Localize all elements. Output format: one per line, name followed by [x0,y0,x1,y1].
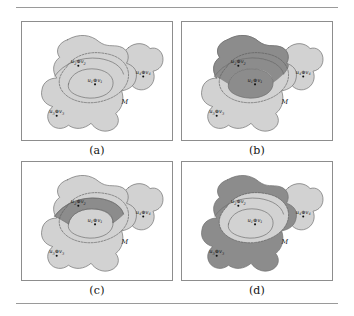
horizontal-rule-top [16,7,338,8]
panel-cell-c: Mu1⊕v1u2⊕v2u3⊕v3u4⊕v4 (c) [21,161,173,301]
diagram-svg-c: Mu1⊕v1u2⊕v2u3⊕v3u4⊕v4 [22,162,172,280]
region-main-blob [41,35,136,131]
point-marker-u4v4 [302,215,304,217]
panel-caption-d: (d) [181,281,333,301]
diagram-panel-a: Mu1⊕v1u2⊕v2u3⊕v3u4⊕v4 [21,21,173,141]
m-region-label: M [121,98,129,106]
diagram-panel-b: Mu1⊕v1u2⊕v2u3⊕v3u4⊕v4 [181,21,333,141]
point-marker-u2v2 [77,65,79,67]
point-marker-u4v4 [142,215,144,217]
point-marker-u4v4 [142,75,144,77]
point-marker-u2v2 [77,205,79,207]
figure-container: Mu1⊕v1u2⊕v2u3⊕v3u4⊕v4 (a) Mu1⊕v1u2⊕v2u3⊕… [0,0,354,316]
point-marker-u4v4 [302,75,304,77]
diagram-svg-b: Mu1⊕v1u2⊕v2u3⊕v3u4⊕v4 [182,22,332,140]
diagram-svg-d: Mu1⊕v1u2⊕v2u3⊕v3u4⊕v4 [182,162,332,280]
point-marker-u2v2 [237,65,239,67]
panel-grid: Mu1⊕v1u2⊕v2u3⊕v3u4⊕v4 (a) Mu1⊕v1u2⊕v2u3⊕… [21,21,333,301]
point-marker-u1v1 [254,83,256,85]
point-marker-u3v3 [56,255,58,257]
panel-caption-c: (c) [21,281,173,301]
point-marker-u2v2 [237,205,239,207]
diagram-svg-a: Mu1⊕v1u2⊕v2u3⊕v3u4⊕v4 [22,22,172,140]
m-region-label: M [281,238,289,246]
panel-cell-d: Mu1⊕v1u2⊕v2u3⊕v3u4⊕v4 (d) [181,161,333,301]
panel-caption-a: (a) [21,141,173,161]
horizontal-rule-bottom [16,303,338,304]
point-marker-u1v1 [94,223,96,225]
point-marker-u3v3 [216,255,218,257]
m-region-label: M [281,98,289,106]
panel-cell-b: Mu1⊕v1u2⊕v2u3⊕v3u4⊕v4 (b) [181,21,333,161]
point-marker-u1v1 [254,223,256,225]
diagram-panel-d: Mu1⊕v1u2⊕v2u3⊕v3u4⊕v4 [181,161,333,281]
m-region-label: M [121,238,129,246]
region-main-blob [41,175,136,271]
point-marker-u3v3 [216,115,218,117]
point-marker-u1v1 [94,83,96,85]
panel-caption-b: (b) [181,141,333,161]
panel-cell-a: Mu1⊕v1u2⊕v2u3⊕v3u4⊕v4 (a) [21,21,173,161]
diagram-panel-c: Mu1⊕v1u2⊕v2u3⊕v3u4⊕v4 [21,161,173,281]
point-marker-u3v3 [56,115,58,117]
